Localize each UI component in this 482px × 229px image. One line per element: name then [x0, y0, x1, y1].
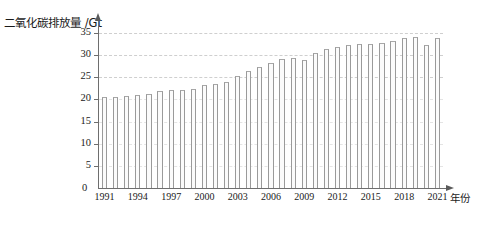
x-axis-title: 年份: [450, 190, 470, 205]
bar: [291, 58, 296, 188]
bar: [402, 38, 407, 189]
bar: [302, 60, 307, 188]
y-tick-mark: [94, 99, 98, 100]
x-tick-label: 2000: [194, 191, 214, 202]
bar: [169, 90, 174, 188]
bar: [113, 97, 118, 188]
y-tick-label: 20: [81, 92, 92, 103]
x-tick-label: 2012: [328, 191, 348, 202]
bar: [124, 96, 129, 188]
y-tick-mark: [94, 144, 98, 145]
y-tick-label: 30: [81, 48, 92, 59]
bar: [313, 53, 318, 188]
y-tick-mark: [94, 166, 98, 167]
bar: [191, 89, 196, 188]
bar: [335, 47, 340, 188]
y-tick-label: 5: [86, 159, 91, 170]
y-tick-mark: [94, 77, 98, 78]
y-tick-label: 0: [82, 182, 87, 193]
x-tick-label: 1997: [161, 191, 181, 202]
x-tick-label: 2018: [394, 191, 414, 202]
x-tick-label: 2021: [427, 191, 447, 202]
bar: [157, 91, 162, 188]
y-tick-mark: [94, 33, 98, 34]
bar: [102, 97, 107, 188]
y-tick-label: 35: [81, 26, 92, 37]
bar: [246, 71, 251, 188]
bar: [235, 76, 240, 188]
bar: [357, 44, 362, 188]
bar: [268, 63, 273, 188]
bar: [135, 95, 140, 188]
bar: [346, 45, 351, 188]
bar: [324, 49, 329, 188]
bar: [146, 94, 151, 188]
bar: [379, 43, 384, 188]
y-axis-arrow-icon: [95, 13, 101, 21]
bar: [368, 44, 373, 188]
y-tick-mark: [94, 122, 98, 123]
y-tick-label: 15: [81, 115, 92, 126]
bar: [390, 41, 395, 188]
y-tick-label: 10: [81, 137, 92, 148]
x-tick-label: 2009: [294, 191, 314, 202]
co2-emissions-bar-chart: 二氧化碳排放量 /Gt 05101520253035 1991199419972…: [0, 0, 482, 229]
bar: [213, 84, 218, 188]
x-tick-label: 2003: [228, 191, 248, 202]
bar: [435, 38, 440, 189]
x-tick-label: 2006: [261, 191, 281, 202]
x-tick-label: 1991: [95, 191, 115, 202]
x-axis-line: [98, 188, 448, 189]
bar: [279, 59, 284, 188]
bars-container: [99, 22, 443, 188]
y-tick-mark: [94, 55, 98, 56]
bar: [257, 67, 262, 188]
x-tick-label: 1994: [128, 191, 148, 202]
bar: [424, 45, 429, 188]
y-tick-label: 25: [81, 70, 92, 81]
bar: [413, 37, 418, 188]
x-tick-label: 2015: [361, 191, 381, 202]
bar: [180, 90, 185, 188]
bar: [224, 82, 229, 188]
bar: [202, 85, 207, 188]
